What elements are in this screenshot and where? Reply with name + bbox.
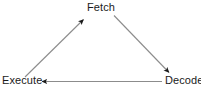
arrow-execute-to-fetch: [25, 20, 84, 78]
node-label-fetch: Fetch: [87, 2, 115, 13]
arrow-fetch-to-decode: [114, 16, 169, 73]
node-label-decode: Decode: [165, 75, 201, 86]
node-label-execute: Execute: [2, 75, 42, 86]
cycle-diagram: Fetch Decode Execute: [0, 0, 201, 93]
